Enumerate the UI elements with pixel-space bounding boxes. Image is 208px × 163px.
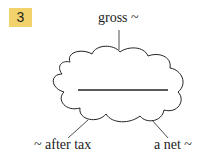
label-bottom-left: ~ after tax xyxy=(34,137,91,153)
label-bottom-right: a net ~ xyxy=(154,137,192,153)
cloud-shape xyxy=(53,46,183,122)
connector-bottom-left xyxy=(68,120,88,138)
connector-bottom-right xyxy=(152,120,168,138)
label-top: gross ~ xyxy=(98,10,139,26)
